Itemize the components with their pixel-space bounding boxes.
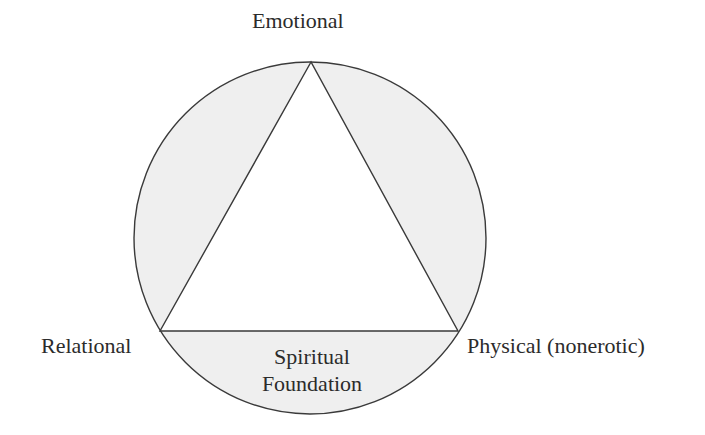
- segment-label-line-2: Foundation: [250, 370, 374, 397]
- vertex-label-physical: Physical (nonerotic): [467, 333, 645, 359]
- segment-label-spiritual-foundation: Spiritual Foundation: [250, 343, 374, 397]
- segment-label-line-1: Spiritual: [250, 343, 374, 370]
- vertex-label-emotional: Emotional: [252, 8, 344, 34]
- vertex-label-relational: Relational: [41, 333, 131, 359]
